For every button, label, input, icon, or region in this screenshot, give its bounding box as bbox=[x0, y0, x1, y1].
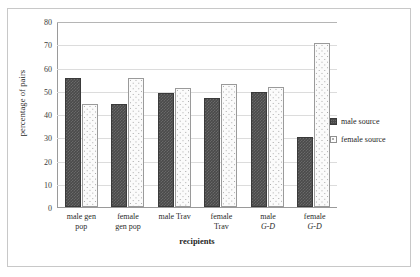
x-axis-tick-label: male genpop bbox=[58, 212, 105, 232]
y-axis-tick-label: 10 bbox=[44, 180, 52, 189]
chart-figure: percentage of pairs 80706050403020100 ma… bbox=[0, 0, 420, 277]
y-axis-tick-label: 30 bbox=[44, 134, 52, 143]
bar-group bbox=[244, 22, 291, 207]
bar-group bbox=[198, 22, 245, 207]
bar-group bbox=[291, 22, 338, 207]
y-axis-tick-label: 80 bbox=[44, 18, 52, 27]
x-axis-tick-label: male Trav bbox=[151, 212, 198, 232]
bar-male-source bbox=[158, 93, 174, 207]
x-axis-tick-label: femaleG-D bbox=[291, 212, 338, 232]
y-axis-tick-label: 60 bbox=[44, 64, 52, 73]
y-axis-tick-label: 20 bbox=[44, 157, 52, 166]
y-axis-tick-label: 0 bbox=[48, 204, 52, 213]
y-axis-tick-label: 70 bbox=[44, 41, 52, 50]
y-axis-tick-label: 40 bbox=[44, 111, 52, 120]
x-axis-title: recipients bbox=[57, 236, 337, 246]
bar-group bbox=[105, 22, 152, 207]
y-axis-tick-label: 50 bbox=[44, 87, 52, 96]
x-axis-tick-label: femalegen pop bbox=[105, 212, 152, 232]
bar-male-source bbox=[65, 78, 81, 207]
legend-item-female-source: female source bbox=[330, 135, 386, 144]
male-source-swatch-icon bbox=[330, 118, 337, 125]
y-axis-title: percentage of pairs bbox=[17, 48, 27, 158]
bar-groups bbox=[58, 22, 337, 207]
bar-female-source bbox=[82, 104, 98, 207]
legend-label-female-source: female source bbox=[341, 135, 386, 144]
legend-item-male-source: male source bbox=[330, 117, 386, 126]
bar-male-source bbox=[111, 104, 127, 207]
x-axis-tick-label: male G-D bbox=[245, 212, 292, 232]
bar-male-source bbox=[251, 92, 267, 207]
bar-group bbox=[58, 22, 105, 207]
x-axis-tick-labels: male genpopfemalegen popmale TravfemaleT… bbox=[58, 212, 338, 232]
bar-female-source bbox=[128, 78, 144, 207]
bar-male-source bbox=[297, 137, 313, 207]
bar-group bbox=[151, 22, 198, 207]
x-axis-tick-label: femaleTrav bbox=[198, 212, 245, 232]
bar-female-source bbox=[314, 43, 330, 207]
chart-legend: male source female source bbox=[330, 117, 386, 144]
x-axis-line bbox=[57, 207, 337, 208]
bar-female-source bbox=[221, 84, 237, 207]
bar-female-source bbox=[268, 87, 284, 207]
legend-label-male-source: male source bbox=[341, 117, 379, 126]
female-source-swatch-icon bbox=[330, 136, 337, 143]
plot-area: 80706050403020100 bbox=[57, 22, 337, 208]
bar-male-source bbox=[204, 98, 220, 207]
bar-female-source bbox=[175, 88, 191, 207]
